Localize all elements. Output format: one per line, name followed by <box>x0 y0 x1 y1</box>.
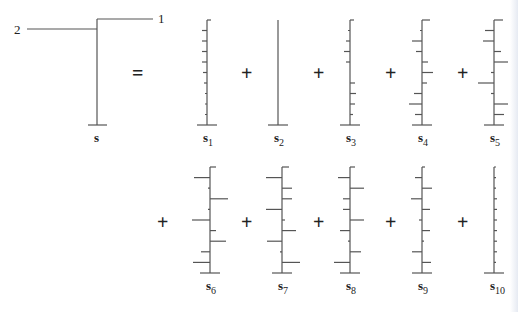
stem-label: s5 <box>490 130 500 148</box>
plus-sign: + <box>313 62 324 84</box>
stem-s8: s8 <box>334 167 364 296</box>
branch-1-label: 1 <box>158 11 165 26</box>
stem-s1: s1 <box>197 20 217 148</box>
stem-label: s1 <box>203 130 213 148</box>
plus-sign: + <box>241 211 252 233</box>
stem-s6: s6 <box>192 167 228 296</box>
plus-sign: + <box>457 62 468 84</box>
stem-subscript: 4 <box>423 137 428 148</box>
plus-sign: + <box>385 211 396 233</box>
plus-sign: + <box>385 62 396 84</box>
stem-label: s6 <box>206 278 216 296</box>
plus-sign: + <box>241 62 252 84</box>
stem-subscript: 1 <box>208 137 213 148</box>
stem-s2: s2 <box>268 20 288 148</box>
stem-subscript: 6 <box>211 285 216 296</box>
plus-sign: + <box>457 211 468 233</box>
stem-s5: s5 <box>478 20 508 148</box>
stem-label: s10 <box>490 278 505 296</box>
stem-decomposition-diagram: 12s =+++++++++ s1s2s3s4s5s6s7s8s9s10 <box>0 0 518 312</box>
operators: =+++++++++ <box>132 62 468 233</box>
stem-s9: s9 <box>411 167 432 296</box>
stem-subscript: 5 <box>495 137 500 148</box>
branch-2-label: 2 <box>14 22 21 37</box>
tree-label: s <box>94 130 99 145</box>
stem-subscript: 2 <box>279 137 284 148</box>
stem-label: s4 <box>418 130 428 148</box>
stem-label: s7 <box>278 278 288 296</box>
stem-label: s3 <box>346 130 356 148</box>
stem-s4: s4 <box>409 20 433 148</box>
equals-sign: = <box>132 62 143 84</box>
stem-subscript: 3 <box>351 137 356 148</box>
stem-label: s2 <box>274 130 284 148</box>
stem-label: s9 <box>418 278 428 296</box>
stem-subscript: 10 <box>495 285 505 296</box>
stem-s3: s3 <box>340 20 360 148</box>
plus-sign: + <box>157 211 168 233</box>
stem-s7: s7 <box>266 167 300 296</box>
stem-subscript: 9 <box>423 285 428 296</box>
stem-label: s8 <box>346 278 356 296</box>
stem-subscript: 7 <box>283 285 288 296</box>
plus-sign: + <box>313 211 324 233</box>
page-edge-shadow <box>510 0 518 312</box>
stem-subscript: 8 <box>351 285 356 296</box>
stem-s10: s10 <box>484 167 505 296</box>
